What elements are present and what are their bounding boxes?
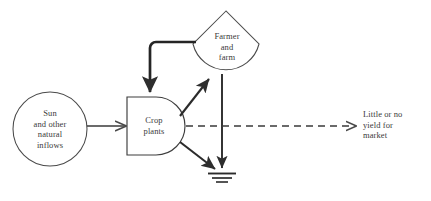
- node-producer-bullet: [127, 97, 185, 155]
- diagram-canvas: Sun and other natural inflows Crop plant…: [0, 0, 431, 201]
- node-source-circle: [13, 92, 87, 166]
- node-heat-sink-ground: [208, 174, 236, 183]
- flow-producer-to-heat-sink: [180, 142, 215, 169]
- energy-systems-diagram: [0, 0, 431, 201]
- node-consumer-hexagon: [193, 11, 259, 70]
- flow-producer-to-consumer: [180, 79, 209, 116]
- flow-consumer-feedback-to-producer: [150, 42, 196, 92]
